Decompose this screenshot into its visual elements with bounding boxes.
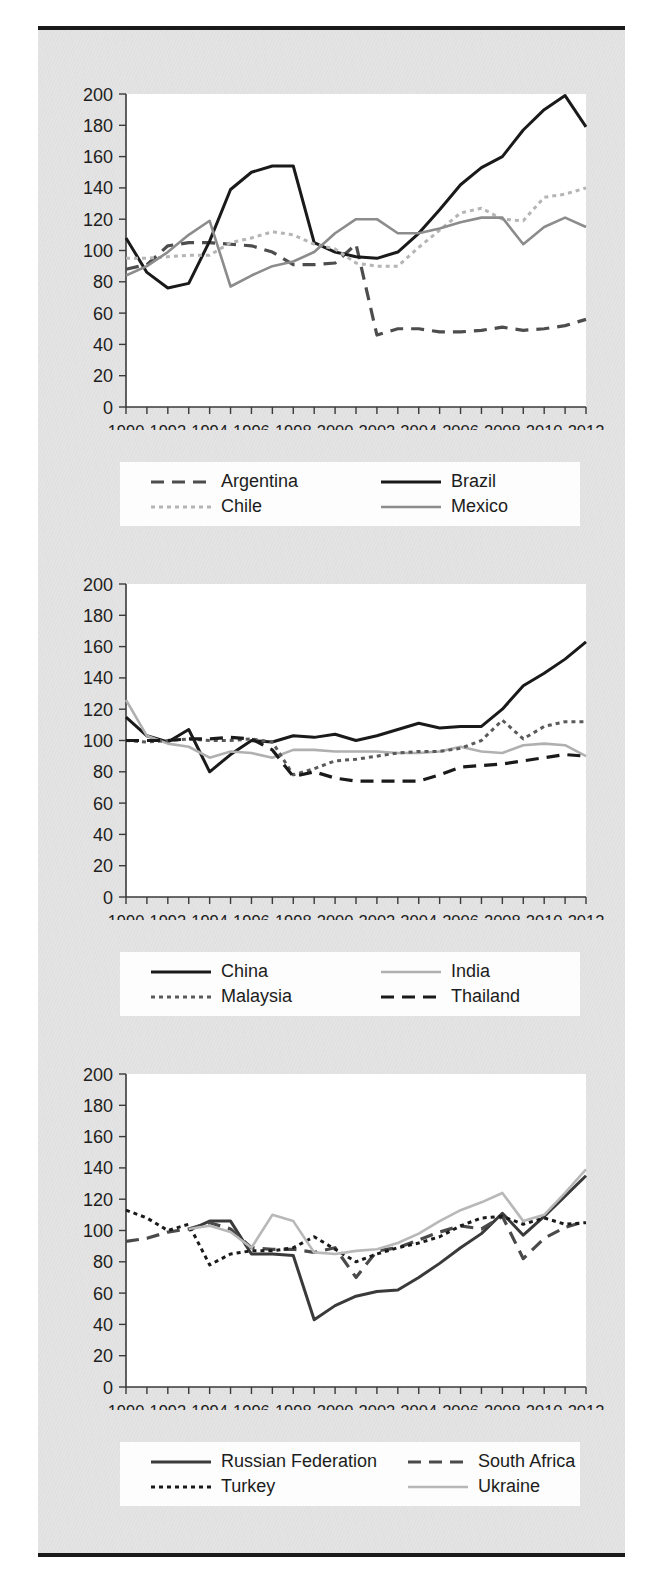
y-tick-label: 20 <box>93 1346 113 1366</box>
y-tick-label: 200 <box>83 85 113 105</box>
x-tick-label: 2002 <box>359 912 396 920</box>
y-tick-label: 40 <box>93 335 113 355</box>
x-tick-label: 2002 <box>359 1402 396 1410</box>
x-tick-label: 2006 <box>442 912 479 920</box>
legend-item-argentina[interactable]: Argentina <box>120 471 350 492</box>
legend-other-emerging: Russian FederationSouth AfricaTurkeyUkra… <box>120 1442 580 1506</box>
chart-block-other-emerging: 0204060801001201401601802001990199219941… <box>0 1040 660 1410</box>
legend-swatch-solid-grey-icon <box>380 966 442 978</box>
y-tick-label: 80 <box>93 762 113 782</box>
chart-asia: 0204060801001201401601802001990199219941… <box>40 550 610 920</box>
x-tick-label: 1990 <box>108 422 145 430</box>
legend-item-india[interactable]: India <box>350 961 580 982</box>
x-tick-label: 2004 <box>400 1402 437 1410</box>
chart-other-emerging: 0204060801001201401601802001990199219941… <box>40 1040 610 1410</box>
legend-item-russian-federation[interactable]: Russian Federation <box>120 1451 377 1472</box>
legend-latin-america: ArgentinaBrazilChileMexico <box>120 462 580 526</box>
y-tick-label: 20 <box>93 366 113 386</box>
y-tick-label: 80 <box>93 272 113 292</box>
y-tick-label: 60 <box>93 1284 113 1304</box>
legend-item-brazil[interactable]: Brazil <box>350 471 580 492</box>
y-tick-label: 140 <box>83 1158 113 1178</box>
legend-swatch-dotted-icon <box>150 1481 212 1493</box>
y-tick-label: 40 <box>93 1315 113 1335</box>
chart-block-asia: 0204060801001201401601802001990199219941… <box>0 550 660 920</box>
x-tick-label: 1994 <box>191 912 228 920</box>
x-tick-label: 2004 <box>400 912 437 920</box>
y-tick-label: 200 <box>83 1065 113 1085</box>
legend-item-thailand[interactable]: Thailand <box>350 986 580 1007</box>
legend-swatch-dotted-icon <box>150 501 212 513</box>
legend-item-turkey[interactable]: Turkey <box>120 1476 377 1497</box>
x-tick-label: 1994 <box>191 422 228 430</box>
x-tick-label: 2000 <box>317 1402 354 1410</box>
x-tick-label: 1992 <box>149 422 186 430</box>
y-tick-label: 100 <box>83 731 113 751</box>
y-tick-label: 160 <box>83 1127 113 1147</box>
y-tick-label: 20 <box>93 856 113 876</box>
legend-label: South Africa <box>478 1451 575 1472</box>
legend-item-malaysia[interactable]: Malaysia <box>120 986 350 1007</box>
y-tick-label: 40 <box>93 825 113 845</box>
x-tick-label: 2012 <box>568 912 605 920</box>
x-tick-label: 1994 <box>191 1402 228 1410</box>
legend-asia: ChinaIndiaMalaysiaThailand <box>120 952 580 1016</box>
x-tick-label: 1990 <box>108 1402 145 1410</box>
x-tick-label: 2006 <box>442 422 479 430</box>
y-tick-label: 80 <box>93 1252 113 1272</box>
y-tick-label: 120 <box>83 1190 113 1210</box>
legend-swatch-solid-grey-icon <box>407 1481 469 1493</box>
y-tick-label: 180 <box>83 1096 113 1116</box>
x-tick-label: 2012 <box>568 1402 605 1410</box>
legend-swatch-dashed-icon <box>407 1456 469 1468</box>
y-tick-label: 160 <box>83 637 113 657</box>
x-tick-label: 2002 <box>359 422 396 430</box>
legend-item-ukraine[interactable]: Ukraine <box>377 1476 580 1497</box>
line-chart-svg-0: 0204060801001201401601802001990199219941… <box>40 60 610 430</box>
legend-swatch-dashed-icon <box>380 991 442 1003</box>
legend-item-chile[interactable]: Chile <box>120 496 350 517</box>
x-tick-label: 1998 <box>275 912 312 920</box>
x-tick-label: 1996 <box>233 912 270 920</box>
y-tick-label: 100 <box>83 1221 113 1241</box>
scanned-page: 0204060801001201401601802001990199219941… <box>0 0 660 1591</box>
legend-item-china[interactable]: China <box>120 961 350 982</box>
x-tick-label: 2010 <box>526 912 563 920</box>
legend-label: Brazil <box>451 471 496 492</box>
y-tick-label: 60 <box>93 794 113 814</box>
x-tick-label: 1998 <box>275 1402 312 1410</box>
legend-item-south-africa[interactable]: South Africa <box>377 1451 580 1472</box>
legend-label: Mexico <box>451 496 508 517</box>
x-tick-label: 2010 <box>526 1402 563 1410</box>
y-tick-label: 120 <box>83 700 113 720</box>
x-tick-label: 2012 <box>568 422 605 430</box>
y-tick-label: 140 <box>83 668 113 688</box>
y-tick-label: 0 <box>103 888 113 908</box>
y-tick-label: 200 <box>83 575 113 595</box>
x-tick-label: 2004 <box>400 422 437 430</box>
x-tick-label: 2000 <box>317 912 354 920</box>
chart-latin-america: 0204060801001201401601802001990199219941… <box>40 60 610 430</box>
legend-swatch-dotted-icon <box>150 991 212 1003</box>
legend-label: Argentina <box>221 471 298 492</box>
y-tick-label: 0 <box>103 1378 113 1398</box>
y-tick-label: 160 <box>83 147 113 167</box>
y-tick-label: 140 <box>83 178 113 198</box>
legend-swatch-solid-grey-icon <box>380 501 442 513</box>
legend-swatch-dashed-icon <box>150 476 212 488</box>
y-tick-label: 120 <box>83 210 113 230</box>
legend-item-mexico[interactable]: Mexico <box>350 496 580 517</box>
bottom-rule <box>38 1553 625 1557</box>
line-chart-svg-1: 0204060801001201401601802001990199219941… <box>40 550 610 920</box>
legend-label: China <box>221 961 268 982</box>
x-tick-label: 2010 <box>526 422 563 430</box>
y-tick-label: 0 <box>103 398 113 418</box>
legend-label: Malaysia <box>221 986 292 1007</box>
line-chart-svg-2: 0204060801001201401601802001990199219941… <box>40 1040 610 1410</box>
y-tick-label: 100 <box>83 241 113 261</box>
legend-label: Chile <box>221 496 262 517</box>
y-tick-label: 180 <box>83 116 113 136</box>
x-tick-label: 1992 <box>149 912 186 920</box>
legend-label: Thailand <box>451 986 520 1007</box>
x-tick-label: 2008 <box>484 422 521 430</box>
